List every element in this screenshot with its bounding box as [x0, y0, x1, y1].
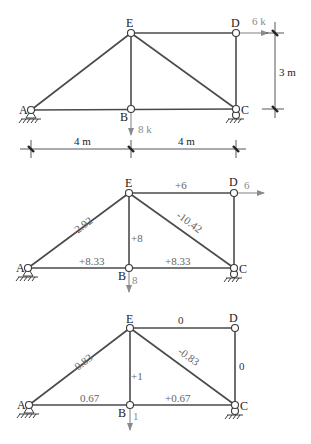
load-b-label: 8 k: [138, 123, 152, 135]
node-d: [231, 190, 238, 197]
dim-right-label: 4 m: [178, 135, 195, 147]
dim-height-label: 3 m: [279, 66, 296, 78]
label-e: E: [126, 16, 133, 30]
truss-figure: A E B D C 6 k 8 k 4 m 4 m 3 m: [0, 0, 311, 444]
node-d: [233, 30, 240, 37]
member-ae: [31, 33, 131, 110]
label-c: C: [241, 103, 249, 117]
label-a: A: [16, 261, 25, 275]
label-b: B: [118, 269, 126, 283]
force-ed: +6: [175, 179, 187, 191]
real-force-diagram: A E B D C 6 8 -2.92 +6 +8 -10.42 +8.33 +…: [16, 175, 264, 292]
label-d: D: [229, 311, 238, 325]
node-a: [28, 107, 35, 114]
label-c: C: [239, 262, 247, 276]
force-eb: +8: [131, 232, 143, 244]
force-bc: +0.67: [165, 392, 191, 404]
force-ab: +8.33: [79, 255, 105, 267]
label-c: C: [240, 399, 248, 413]
node-c: [231, 265, 238, 272]
node-e: [128, 30, 135, 37]
force-eb: +1: [131, 370, 143, 382]
load-d-label: 6: [244, 179, 250, 191]
node-e: [126, 190, 133, 197]
load-b-label: 8: [132, 274, 138, 286]
force-ae: -2.92: [69, 214, 95, 237]
force-ed: 0: [178, 314, 184, 326]
load-d-label: 6 k: [252, 15, 266, 27]
virtual-force-diagram: A E B D C 1 -0.83 0 +1 -0.83 0.67 +0.67 …: [17, 311, 248, 430]
label-b: B: [120, 110, 128, 124]
node-a: [25, 265, 32, 272]
label-e: E: [126, 312, 133, 326]
load-b-label: 1: [133, 410, 139, 422]
node-b: [127, 402, 134, 409]
dim-left-label: 4 m: [74, 135, 91, 147]
node-b: [128, 106, 135, 113]
label-a: A: [19, 103, 28, 117]
node-d: [232, 325, 239, 332]
force-dc: 0: [239, 360, 245, 372]
loaded-truss-diagram: A E B D C 6 k 8 k 4 m 4 m 3 m: [19, 15, 296, 158]
label-d: D: [231, 16, 240, 30]
node-b: [126, 265, 133, 272]
force-bc: +8.33: [165, 255, 191, 267]
force-ae: -0.83: [69, 351, 95, 375]
force-ec: -10.42: [174, 209, 204, 235]
dimension-horizontal: [20, 140, 246, 158]
node-c: [232, 402, 239, 409]
label-d: D: [229, 175, 238, 189]
label-a: A: [17, 398, 26, 412]
label-b: B: [118, 406, 126, 420]
node-c: [233, 106, 240, 113]
force-ab: 0.67: [80, 392, 100, 404]
member-ec: [131, 33, 236, 109]
node-a: [26, 402, 33, 409]
label-e: E: [125, 176, 132, 190]
